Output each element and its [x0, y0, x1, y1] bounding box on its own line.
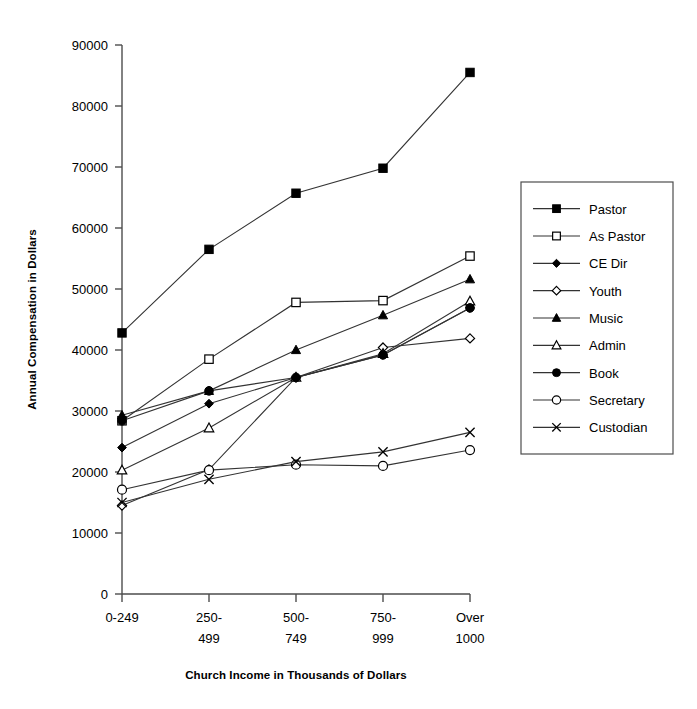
open-circle-icon [118, 485, 127, 494]
open-square-icon [466, 252, 474, 260]
filled-circle-icon [292, 373, 301, 382]
series-line [122, 338, 470, 505]
data-point-marker [466, 68, 474, 76]
data-point-marker [117, 465, 127, 474]
legend-item-label: CE Dir [589, 256, 628, 271]
filled-triangle-icon [378, 310, 387, 318]
open-circle-icon [552, 396, 560, 404]
open-triangle-icon [117, 465, 127, 474]
data-point-marker [118, 329, 126, 337]
open-circle-icon [379, 461, 388, 470]
data-point-marker [465, 428, 474, 437]
data-point-marker [205, 399, 214, 408]
legend-item-label: As Pastor [589, 229, 646, 244]
x-axis-category-label: 999 [372, 631, 394, 646]
x-axis-category-label: 750- [370, 610, 396, 625]
legend-item-label: Custodian [589, 420, 648, 435]
data-point-marker [465, 274, 474, 282]
y-axis-tick-label: 90000 [72, 38, 108, 53]
filled-circle-icon [205, 387, 214, 396]
data-point-marker [379, 164, 387, 172]
open-square-icon [553, 232, 561, 240]
data-point-marker [465, 334, 474, 343]
filled-square-icon [379, 164, 387, 172]
y-axis-tick-label: 50000 [72, 282, 108, 297]
compensation-line-chart: 0100002000030000400005000060000700008000… [0, 0, 697, 709]
y-axis-tick-label: 40000 [72, 343, 108, 358]
legend-item-label: Admin [589, 338, 626, 353]
series-admin [117, 296, 475, 474]
filled-diamond-icon [205, 399, 214, 408]
x-axis-category-label: Over [456, 610, 485, 625]
data-point-marker [466, 446, 475, 455]
legend-item-label: Pastor [589, 202, 627, 217]
open-diamond-icon [465, 334, 474, 343]
data-point-marker [466, 304, 475, 313]
series-line [122, 256, 470, 421]
filled-circle-icon [466, 304, 475, 313]
data-point-marker [466, 252, 474, 260]
y-axis-tick-label: 30000 [72, 404, 108, 419]
data-point-marker [205, 466, 214, 475]
data-point-marker [205, 355, 213, 363]
x-axis-category-label: 749 [285, 631, 307, 646]
filled-circle-icon [379, 351, 388, 360]
data-point-marker [118, 416, 127, 425]
data-point-marker [292, 189, 300, 197]
series-pastor [118, 68, 474, 337]
x-axis-title: Church Income in Thousands of Dollars [185, 669, 407, 681]
data-point-marker [553, 369, 561, 377]
filled-circle-icon [118, 416, 127, 425]
open-square-icon [292, 298, 300, 306]
series-line [122, 308, 470, 421]
y-axis-tick-label: 80000 [72, 99, 108, 114]
y-axis-tick-label: 10000 [72, 526, 108, 541]
data-point-marker [379, 351, 388, 360]
x-axis-category-label: 500- [283, 610, 309, 625]
data-point-marker [205, 387, 214, 396]
y-axis: 0100002000030000400005000060000700008000… [72, 38, 122, 602]
data-point-marker [292, 373, 301, 382]
y-axis-tick-label: 60000 [72, 221, 108, 236]
filled-square-icon [292, 189, 300, 197]
x-axis-category-label: 250- [196, 610, 222, 625]
open-square-icon [205, 355, 213, 363]
open-circle-icon [466, 446, 475, 455]
series-music [117, 274, 474, 418]
filled-square-icon [466, 68, 474, 76]
legend-item-label: Book [589, 366, 619, 381]
x-axis-category-label: 0-249 [105, 610, 138, 625]
data-point-marker [118, 443, 127, 452]
series-book [118, 304, 475, 425]
data-point-marker [378, 310, 387, 318]
filled-diamond-icon [118, 443, 127, 452]
filled-square-icon [205, 245, 213, 253]
legend-item-label: Secretary [589, 393, 645, 408]
legend-item-label: Youth [589, 284, 622, 299]
data-point-marker [379, 461, 388, 470]
data-point-marker [204, 475, 213, 484]
filled-triangle-icon [291, 345, 300, 353]
y-axis-tick-label: 20000 [72, 465, 108, 480]
open-triangle-icon [204, 423, 214, 432]
filled-triangle-icon [465, 274, 474, 282]
legend: PastorAs PastorCE DirYouthMusicAdminBook… [521, 182, 673, 454]
filled-circle-icon [553, 369, 561, 377]
series-line [122, 301, 470, 470]
data-point-marker [118, 485, 127, 494]
data-point-marker [292, 298, 300, 306]
filled-square-icon [553, 205, 561, 213]
data-point-marker [379, 296, 387, 304]
data-point-marker [204, 423, 214, 432]
data-point-marker [553, 205, 561, 213]
y-axis-tick-label: 70000 [72, 160, 108, 175]
data-point-marker [552, 396, 560, 404]
open-square-icon [379, 296, 387, 304]
filled-square-icon [118, 329, 126, 337]
data-point-marker [205, 245, 213, 253]
series-line [122, 72, 470, 332]
y-axis-tick-label: 0 [101, 587, 108, 602]
series-youth [117, 334, 474, 510]
open-circle-icon [205, 466, 214, 475]
series-as-pastor [118, 252, 474, 425]
